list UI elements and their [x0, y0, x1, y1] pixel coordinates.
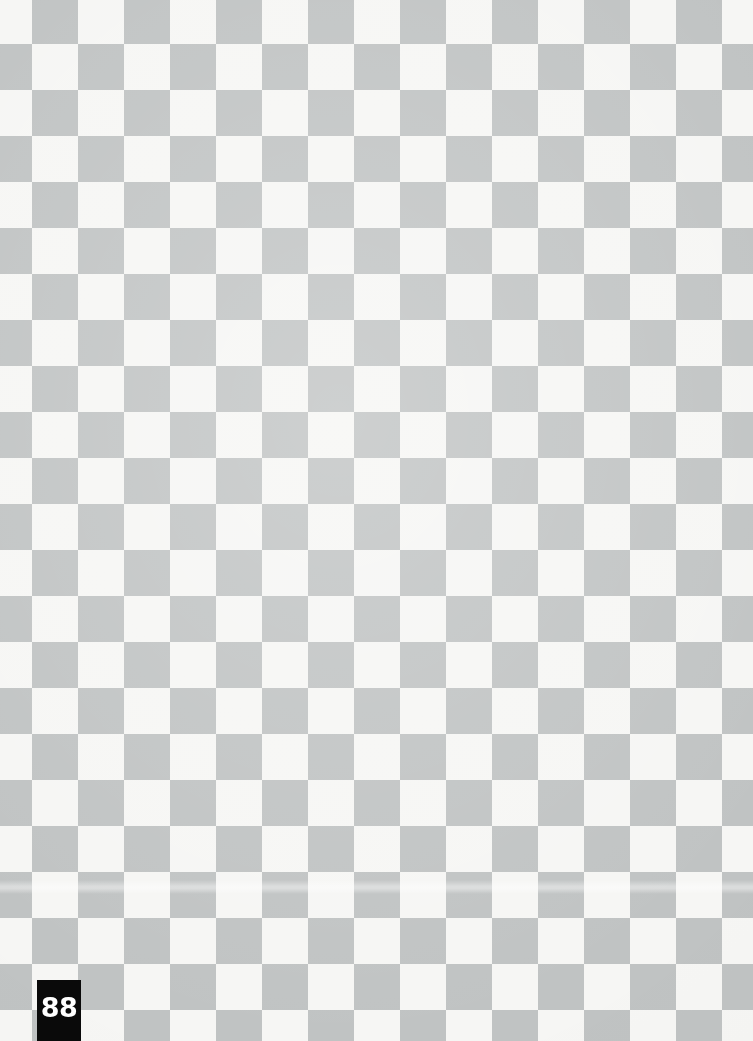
scanned-page: 88: [0, 0, 753, 1041]
checkerboard-pattern: [0, 0, 753, 1041]
page-number-tab: 88: [37, 980, 81, 1041]
page-number-label: 88: [41, 980, 78, 1021]
